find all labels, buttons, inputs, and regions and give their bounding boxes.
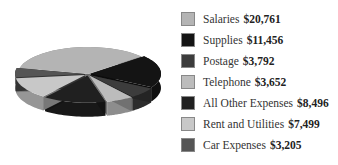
legend-value: $11,456 [247,34,284,46]
legend-label: Supplies [203,34,243,46]
legend-label: All Other Expenses [203,97,293,109]
pie-chart [0,0,175,165]
legend-swatch [181,12,195,26]
legend-value: $3,652 [255,76,287,88]
legend-label: Rent and Utilities [203,118,284,130]
legend-label: Telephone [203,76,251,88]
legend-swatch [181,117,195,131]
legend-value: $8,496 [297,97,329,109]
legend-label: Salaries [203,13,239,25]
legend-value: $3,205 [270,139,302,151]
legend-swatch [181,54,195,68]
legend-label: Postage [203,55,239,67]
legend-label: Car Expenses [203,139,266,151]
legend-swatch [181,138,195,152]
legend-value: $20,761 [243,13,280,25]
legend-swatch [181,96,195,110]
legend-swatch [181,75,195,89]
legend-value: $3,792 [243,55,275,67]
legend-value: $7,499 [288,118,320,130]
legend-swatch [181,33,195,47]
